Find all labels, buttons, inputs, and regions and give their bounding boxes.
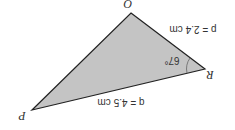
triangle-diagram: Q R P p = 2.4 cm q = 4.5 cm 67° <box>0 0 235 130</box>
angle-label-r: 67° <box>164 55 179 66</box>
vertex-label-r: R <box>206 68 215 82</box>
vertex-label-q: Q <box>123 0 132 11</box>
vertex-label-p: P <box>18 109 27 123</box>
side-label-p: p = 2.4 cm <box>170 24 217 35</box>
side-label-q: q = 4.5 cm <box>98 97 145 108</box>
